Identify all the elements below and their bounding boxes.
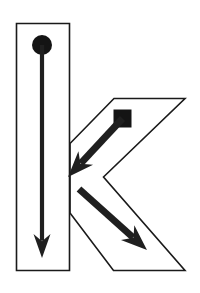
letter-stroke-order-diagram: [0, 0, 200, 293]
letter-k-diagram-svg: [0, 0, 200, 293]
